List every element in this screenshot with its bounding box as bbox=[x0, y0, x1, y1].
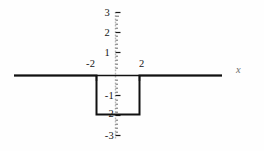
y-tick-label-2: 2 bbox=[96, 28, 110, 39]
function-graph-figure: 3 2 1 -1 -2 -3 -2 2 x bbox=[0, 0, 264, 151]
x-tick-label-minus-2: -2 bbox=[86, 59, 95, 70]
y-tick-label-3: 3 bbox=[96, 8, 110, 19]
y-tick-label-minus-2: -2 bbox=[100, 109, 114, 120]
y-tick-label-1: 1 bbox=[96, 48, 110, 59]
x-axis-label: x bbox=[236, 64, 241, 75]
y-tick-label-minus-3: -3 bbox=[100, 131, 114, 142]
x-tick-label-2: 2 bbox=[139, 59, 145, 70]
y-axis-major-ticks bbox=[116, 13, 121, 136]
y-tick-label-minus-1: -1 bbox=[100, 91, 114, 102]
plot-area bbox=[0, 0, 264, 151]
